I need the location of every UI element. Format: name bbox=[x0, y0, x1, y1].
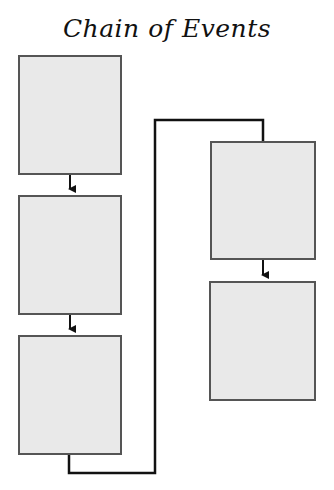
event-box-3[interactable] bbox=[18, 335, 122, 455]
event-box-4[interactable] bbox=[210, 141, 316, 260]
event-box-5[interactable] bbox=[209, 281, 316, 401]
event-box-1[interactable] bbox=[18, 55, 122, 175]
event-box-2[interactable] bbox=[18, 195, 122, 315]
